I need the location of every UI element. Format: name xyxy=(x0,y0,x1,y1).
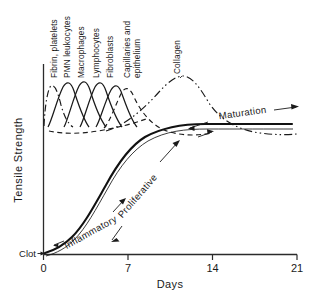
maturation-secondary-arrowhead-icon xyxy=(207,129,214,134)
clot-annotation-group: Clot xyxy=(19,248,45,259)
series-labels-group: Fibrin, platelets PMN leukocytes Macroph… xyxy=(50,16,182,78)
series-label-lymphocytes: Lymphocytes xyxy=(92,28,101,78)
series-label-fibrin-platelets: Fibrin, platelets xyxy=(50,19,59,78)
phase-label-maturation: Maturation xyxy=(218,104,267,122)
wound-healing-chart: 0 7 14 21 Days Tensile Strength Clot xyxy=(0,0,316,292)
x-tick-label-14: 14 xyxy=(206,262,218,274)
curve-collagen xyxy=(106,76,297,135)
y-axis-title: Tensile Strength xyxy=(12,117,24,202)
curve-capillaries-epithelium xyxy=(104,89,212,135)
clot-label: Clot xyxy=(19,248,36,259)
x-tick-label-0: 0 xyxy=(40,262,46,274)
collagen-leader-line xyxy=(180,76,182,78)
x-tick-label-21: 21 xyxy=(291,262,303,274)
x-tick-label-7: 7 xyxy=(125,262,131,274)
series-label-pmn-leukocytes: PMN leukocytes xyxy=(63,16,72,78)
series-label-macrophages: Macrophages xyxy=(77,26,86,78)
axes-group: 0 7 14 21 Days Tensile Strength xyxy=(12,64,303,290)
series-label-fibroblasts: Fibroblasts xyxy=(106,36,115,78)
curve-baseline-trail xyxy=(49,119,146,133)
chart-svg: 0 7 14 21 Days Tensile Strength Clot xyxy=(0,0,316,292)
curve-fibrin-platelets xyxy=(44,86,73,127)
phase-label-proliferative: Proliferative xyxy=(115,172,159,220)
proliferative-arrow-down-line xyxy=(112,226,122,240)
series-label-capillaries-line2: epithelium xyxy=(133,39,142,78)
proliferative-arrowhead-up-icon xyxy=(173,140,181,147)
x-axis-title: Days xyxy=(157,278,184,290)
maturation-arrowhead-right-icon xyxy=(291,104,299,110)
series-label-collagen: Collagen xyxy=(173,40,182,74)
series-label-capillaries-line1: Capillaries and xyxy=(123,21,132,78)
maturation-arrowhead-left-icon xyxy=(188,126,195,131)
